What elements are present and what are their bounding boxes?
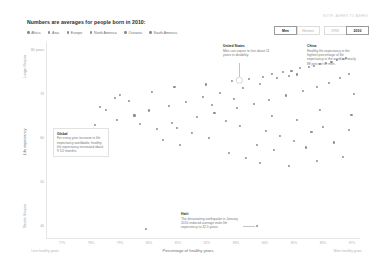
x-tick-label: 84% (262, 241, 269, 245)
scatter-point[interactable] (162, 139, 164, 141)
legend-item-north-america[interactable]: North America (90, 31, 117, 35)
scatter-point[interactable] (151, 91, 153, 93)
annotation-global: Global For every year increase in life e… (53, 128, 109, 157)
legend-item-europe[interactable]: Europe (67, 31, 83, 35)
y-tick-label: 50 (28, 180, 44, 184)
toggle-1990[interactable]: 1990 (324, 26, 347, 35)
scatter-point[interactable] (308, 66, 310, 68)
scatter-point[interactable] (319, 109, 321, 111)
scatter-point[interactable] (270, 73, 272, 75)
scatter-point[interactable] (305, 146, 307, 148)
scatter-point[interactable] (145, 228, 147, 230)
scatter-point[interactable] (276, 77, 278, 79)
scatter-point[interactable] (353, 93, 355, 95)
scatter-point[interactable] (191, 132, 193, 134)
scatter-point[interactable] (233, 98, 235, 100)
scatter-point[interactable] (239, 125, 241, 127)
scatter-point[interactable] (176, 126, 178, 128)
x-tick-label: 77% (59, 241, 66, 245)
scatter-point[interactable] (293, 140, 295, 142)
toggle-2010[interactable]: 2010 (346, 26, 369, 35)
view-toggles[interactable]: MenWomen19902010 (275, 26, 370, 35)
scatter-point[interactable] (168, 105, 170, 107)
scatter-point[interactable] (322, 126, 324, 128)
scatter-point[interactable] (262, 76, 264, 78)
legend-item-oceania[interactable]: Oceania (124, 31, 142, 35)
scatter-point[interactable] (113, 97, 115, 99)
scatter-point[interactable] (288, 75, 290, 77)
scatter-point[interactable] (348, 129, 350, 131)
scatter-point[interactable] (119, 94, 121, 96)
scatter-point[interactable] (339, 77, 341, 79)
scatter-point[interactable] (105, 109, 107, 111)
scatter-point[interactable] (116, 119, 118, 121)
scatter-point[interactable] (285, 94, 287, 96)
scatter-point[interactable] (205, 83, 207, 85)
scatter-point[interactable] (156, 128, 158, 130)
x-tick-label: 78% (88, 241, 95, 245)
scatter-point[interactable] (296, 119, 298, 121)
scatter-point[interactable] (348, 73, 350, 75)
scatter-point[interactable] (242, 87, 244, 89)
scatter-point[interactable] (185, 101, 187, 103)
scatter-point[interactable] (328, 82, 330, 84)
scatter-point[interactable] (268, 99, 270, 101)
y-tick-label: 80 years (28, 48, 44, 52)
x-tick-label: 87% (349, 241, 356, 245)
y-axis-top-note: Longer lifespan (23, 55, 27, 78)
scatter-point[interactable] (148, 109, 150, 111)
scatter-point[interactable] (256, 144, 258, 146)
toggle-men[interactable]: Men (274, 26, 297, 35)
legend-item-africa[interactable]: Africa (27, 31, 40, 35)
scatter-point[interactable] (350, 114, 352, 116)
scatter-point[interactable] (253, 103, 255, 105)
legend-label: South America (154, 31, 177, 35)
y-axis-title: Life expectancy (23, 129, 27, 155)
scatter-point[interactable] (93, 124, 95, 126)
legend-item-asia[interactable]: Asia (48, 31, 59, 35)
scatter-point[interactable] (245, 157, 247, 159)
scatter-point[interactable] (211, 104, 213, 106)
scatter-point[interactable] (333, 141, 335, 143)
legend-item-south-america[interactable]: South America (149, 31, 177, 35)
scatter-point[interactable] (213, 112, 215, 114)
scatter-point[interactable] (196, 116, 198, 118)
scatter-point[interactable] (248, 78, 250, 80)
scatter-point[interactable] (316, 86, 318, 88)
scatter-point[interactable] (279, 135, 281, 137)
scatter-point[interactable] (342, 156, 344, 158)
scatter-point[interactable] (173, 86, 175, 88)
scatter-point[interactable] (139, 123, 141, 125)
scatter-point[interactable] (259, 162, 261, 164)
scatter-point[interactable] (270, 115, 272, 117)
scatter-point[interactable] (282, 71, 284, 73)
scatter-point[interactable] (299, 67, 301, 69)
scatter-point[interactable] (302, 90, 304, 92)
legend-dot-icon (149, 31, 152, 34)
scatter-point[interactable] (265, 130, 267, 132)
legend-dot-icon (67, 31, 70, 34)
scatter-point[interactable] (99, 106, 101, 108)
scatter-point[interactable] (290, 69, 292, 71)
scatter-point[interactable] (202, 96, 204, 98)
scatter-point[interactable] (259, 83, 261, 85)
toggle-women[interactable]: Women (297, 26, 320, 35)
scatter-point[interactable] (208, 137, 210, 139)
scatter-point[interactable] (296, 73, 298, 75)
x-tick-label: 83% (233, 241, 240, 245)
scatter-point[interactable] (273, 149, 275, 151)
scatter-point[interactable] (128, 100, 130, 102)
scatter-point[interactable] (316, 160, 318, 162)
x-tick-label: 80% (146, 241, 153, 245)
scatter-point[interactable] (288, 165, 290, 167)
scatter-point[interactable] (133, 114, 135, 116)
scatter-point[interactable] (225, 120, 227, 122)
scatter-point[interactable] (219, 92, 221, 94)
scatter-point[interactable] (236, 107, 238, 109)
scatter-point[interactable] (230, 80, 232, 82)
annotation-united-states: United States Men can expect to live abo… (223, 44, 275, 57)
scatter-point[interactable] (228, 152, 230, 154)
scatter-point[interactable] (179, 144, 181, 146)
scatter-point[interactable] (171, 122, 173, 124)
scatter-point[interactable] (310, 131, 312, 133)
